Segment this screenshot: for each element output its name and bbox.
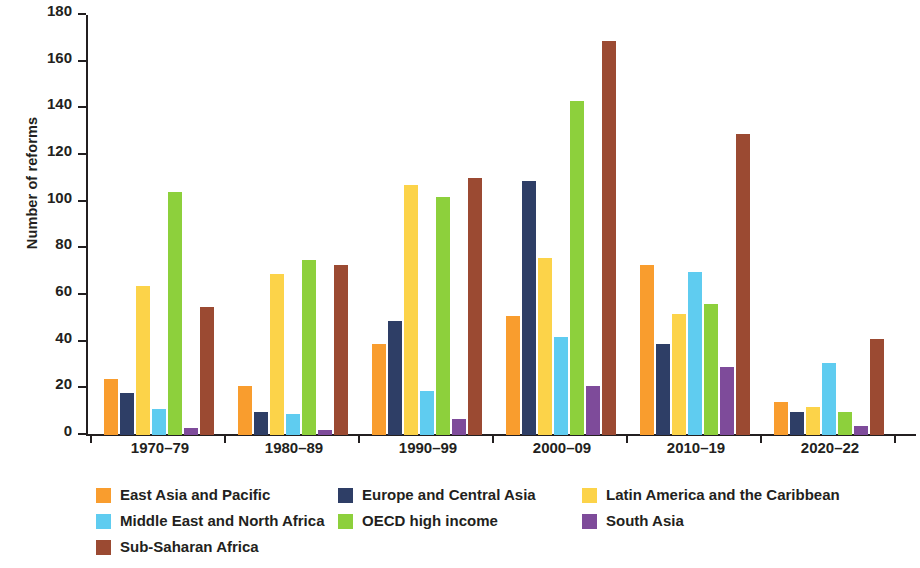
bar xyxy=(254,412,268,435)
bar xyxy=(774,402,788,435)
x-axis-group-label: 2010–19 xyxy=(667,439,725,456)
bar xyxy=(506,316,520,435)
legend-item[interactable]: Europe and Central Asia xyxy=(338,487,582,503)
legend-label: Sub-Saharan Africa xyxy=(120,539,259,555)
legend-swatch-icon xyxy=(96,540,111,555)
bar xyxy=(388,321,402,435)
bar-group: 2010–19 xyxy=(640,15,752,435)
bar xyxy=(554,337,568,435)
y-axis-tick-label: 140 xyxy=(47,95,72,112)
y-axis-tick-label: 100 xyxy=(47,189,72,206)
bar xyxy=(120,393,134,435)
bar-group: 1990–99 xyxy=(372,15,484,435)
legend-swatch-icon xyxy=(338,488,353,503)
bar xyxy=(640,265,654,435)
bar xyxy=(790,412,804,435)
y-axis-tick-label: 160 xyxy=(47,49,72,66)
bar xyxy=(656,344,670,435)
bar xyxy=(302,260,316,435)
bar xyxy=(538,258,552,435)
bar-group-bars xyxy=(372,15,482,435)
x-axis-group-label: 2000–09 xyxy=(533,439,591,456)
y-axis-tick: 160 xyxy=(78,60,86,62)
y-axis-tick: 180 xyxy=(78,13,86,15)
bar xyxy=(822,363,836,435)
bar-group: 2000–09 xyxy=(506,15,618,435)
bar xyxy=(720,367,734,435)
x-axis-tick xyxy=(90,435,92,443)
x-axis-group-label: 1990–99 xyxy=(399,439,457,456)
y-axis-tick: 60 xyxy=(78,293,86,295)
bar xyxy=(688,272,702,435)
bar xyxy=(704,304,718,435)
legend-swatch-icon xyxy=(96,488,111,503)
legend-row: East Asia and PacificEurope and Central … xyxy=(96,487,886,513)
legend-label: East Asia and Pacific xyxy=(120,487,270,503)
legend-item[interactable]: Latin America and the Caribbean xyxy=(582,487,872,503)
legend-swatch-icon xyxy=(582,488,597,503)
y-axis-title: Number of reforms xyxy=(24,73,40,293)
legend-label: Latin America and the Caribbean xyxy=(606,487,840,503)
bar xyxy=(168,192,182,435)
legend-row: Sub-Saharan Africa xyxy=(96,539,886,565)
bar xyxy=(152,409,166,435)
legend-swatch-icon xyxy=(338,514,353,529)
legend-row: Middle East and North AfricaOECD high in… xyxy=(96,513,886,539)
bar xyxy=(200,307,214,435)
bar xyxy=(420,391,434,435)
bar xyxy=(854,426,868,435)
bar-group-bars xyxy=(238,15,348,435)
bar xyxy=(570,101,584,435)
legend-item[interactable]: East Asia and Pacific xyxy=(96,487,338,503)
bar xyxy=(586,386,600,435)
bar-group: 2020–22 xyxy=(774,15,886,435)
y-axis-tick-label: 0 xyxy=(64,422,72,439)
x-axis-tick xyxy=(626,435,628,443)
y-axis-tick-label: 180 xyxy=(47,2,72,19)
y-axis-tick-label: 120 xyxy=(47,142,72,159)
y-axis-tick-label: 20 xyxy=(55,375,72,392)
legend-item[interactable]: South Asia xyxy=(582,513,872,529)
bar-group: 1970–79 xyxy=(104,15,216,435)
legend-label: OECD high income xyxy=(362,513,498,529)
bar xyxy=(184,428,198,435)
legend-label: Europe and Central Asia xyxy=(362,487,536,503)
legend-item[interactable]: Middle East and North Africa xyxy=(96,513,338,529)
bar xyxy=(318,430,332,435)
bar xyxy=(270,274,284,435)
legend-label: South Asia xyxy=(606,513,684,529)
x-axis-group-label: 2020–22 xyxy=(801,439,859,456)
bar xyxy=(372,344,386,435)
bar xyxy=(870,339,884,435)
bar xyxy=(806,407,820,435)
x-axis-group-label: 1980–89 xyxy=(265,439,323,456)
legend-swatch-icon xyxy=(582,514,597,529)
legend-swatch-icon xyxy=(96,514,111,529)
x-axis-tick xyxy=(760,435,762,443)
y-axis-tick: 140 xyxy=(78,106,86,108)
bar xyxy=(436,197,450,435)
legend-label: Middle East and North Africa xyxy=(120,513,324,529)
bar xyxy=(452,419,466,435)
bar xyxy=(522,181,536,435)
y-axis-tick: 120 xyxy=(78,153,86,155)
legend-item[interactable]: OECD high income xyxy=(338,513,582,529)
chart-legend: East Asia and PacificEurope and Central … xyxy=(96,487,886,565)
y-axis-tick-label: 80 xyxy=(55,235,72,252)
bar xyxy=(404,185,418,435)
y-axis-tick: 40 xyxy=(78,340,86,342)
bar-group-bars xyxy=(774,15,884,435)
bar xyxy=(468,178,482,435)
x-axis-tick xyxy=(894,435,896,443)
y-axis-tick-label: 60 xyxy=(55,282,72,299)
bar-group-bars xyxy=(640,15,750,435)
bar xyxy=(736,134,750,435)
x-axis-tick xyxy=(224,435,226,443)
x-axis-tick xyxy=(358,435,360,443)
y-axis-tick: 80 xyxy=(78,246,86,248)
y-axis-tick-label: 40 xyxy=(55,329,72,346)
bar-group: 1980–89 xyxy=(238,15,350,435)
y-axis-tick: 0 xyxy=(78,433,86,435)
bar xyxy=(672,314,686,435)
legend-item[interactable]: Sub-Saharan Africa xyxy=(96,539,338,555)
